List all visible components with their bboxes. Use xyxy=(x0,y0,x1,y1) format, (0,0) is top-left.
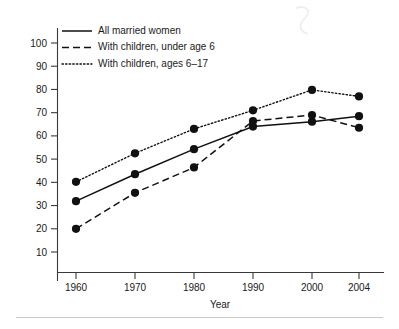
x-tick-label: 1960 xyxy=(65,282,88,293)
legend-label-1: All married women xyxy=(98,25,181,36)
page-divider-rule xyxy=(16,317,383,318)
series-line-3 xyxy=(76,90,359,182)
chart-legend: All married womenWith children, under ag… xyxy=(62,25,215,69)
x-tick-label: 2004 xyxy=(348,282,371,293)
y-tick-label: 20 xyxy=(36,223,48,234)
x-axis-title: Year xyxy=(210,299,231,310)
x-tick-label: 2000 xyxy=(301,282,324,293)
y-axis-ticks: 102030405060708090100 xyxy=(30,38,57,258)
y-tick-label: 10 xyxy=(36,247,48,258)
line-chart: 102030405060708090100 196019701980199020… xyxy=(0,0,399,329)
x-tick-label: 1980 xyxy=(183,282,206,293)
y-tick-label: 50 xyxy=(36,154,48,165)
y-tick-label: 60 xyxy=(36,130,48,141)
series-line-2 xyxy=(76,115,359,229)
legend-label-3: With children, ages 6–17 xyxy=(98,58,209,69)
y-tick-label: 100 xyxy=(30,38,47,49)
y-tick-label: 40 xyxy=(36,177,48,188)
x-axis-ticks: 196019701980199020002004 xyxy=(65,273,371,294)
legend-label-2: With children, under age 6 xyxy=(98,41,215,52)
data-point-markers xyxy=(72,86,363,233)
y-tick-label: 80 xyxy=(36,84,48,95)
y-tick-label: 30 xyxy=(36,200,48,211)
y-tick-label: 70 xyxy=(36,107,48,118)
y-tick-label: 90 xyxy=(36,61,48,72)
x-tick-label: 1990 xyxy=(242,282,265,293)
series-line-1 xyxy=(76,116,359,201)
series-group xyxy=(76,90,359,229)
chart-container: 102030405060708090100 196019701980199020… xyxy=(0,0,399,329)
x-tick-label: 1970 xyxy=(124,282,147,293)
